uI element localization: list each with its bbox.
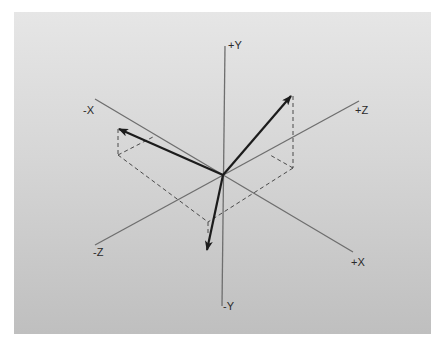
label-minus-x: -X — [83, 104, 95, 116]
3d-axes-diagram: +Y -Y -X +X +Z -Z — [0, 0, 444, 347]
label-minus-z: -Z — [93, 246, 104, 258]
axes — [95, 46, 359, 306]
vector-up-left — [119, 129, 223, 175]
label-plus-x: +X — [351, 256, 365, 268]
projection-lines — [118, 96, 293, 236]
label-plus-z: +Z — [355, 104, 368, 116]
projection-up-left-to-x — [118, 137, 153, 155]
label-plus-y: +Y — [228, 39, 242, 51]
projection-up-left-to-z — [118, 155, 208, 222]
vectors — [119, 96, 291, 250]
vector-up-right — [223, 96, 291, 175]
projection-up-right-to-z — [270, 155, 293, 168]
vector-down — [207, 175, 223, 250]
label-minus-y: -Y — [223, 300, 235, 312]
